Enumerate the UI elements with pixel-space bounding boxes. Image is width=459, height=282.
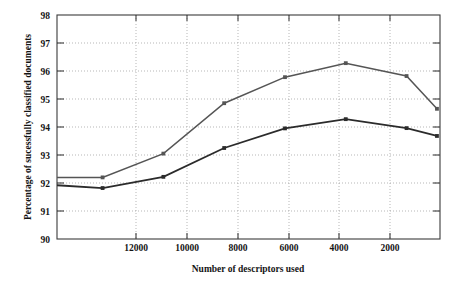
data-point-marker bbox=[101, 186, 105, 190]
x-tick-label-12000: 12000 bbox=[124, 243, 148, 253]
y-tick-label-97: 97 bbox=[41, 39, 51, 49]
data-point-marker bbox=[222, 101, 226, 105]
x-tick-label-2000: 2000 bbox=[381, 243, 400, 253]
y-tick-label-92: 92 bbox=[41, 179, 51, 189]
data-point-marker bbox=[161, 152, 165, 156]
x-tick-label-6000: 6000 bbox=[280, 243, 299, 253]
data-point-marker bbox=[283, 75, 287, 79]
y-tick-label-94: 94 bbox=[41, 123, 51, 133]
y-tick-label-93: 93 bbox=[41, 151, 51, 161]
data-point-marker bbox=[405, 126, 409, 130]
chart-figure: 98 97 96 95 94 93 92 91 90 12000 10000 8… bbox=[0, 0, 459, 282]
data-point-marker bbox=[101, 176, 105, 180]
data-point-marker bbox=[283, 127, 287, 131]
y-tick-label-91: 91 bbox=[41, 207, 51, 217]
y-tick-label-98: 98 bbox=[41, 11, 51, 21]
y-tick-label-90: 90 bbox=[41, 235, 51, 245]
x-tick-label-8000: 8000 bbox=[229, 243, 248, 253]
data-point-marker bbox=[161, 175, 165, 179]
data-point-marker bbox=[405, 74, 409, 78]
x-tick-label-10000: 10000 bbox=[175, 243, 199, 253]
x-axis-title: Number of descriptors used bbox=[192, 264, 305, 274]
line-chart: 98 97 96 95 94 93 92 91 90 12000 10000 8… bbox=[0, 0, 459, 282]
data-point-marker bbox=[435, 134, 439, 138]
data-point-marker bbox=[222, 146, 226, 150]
data-point-marker bbox=[344, 117, 348, 121]
y-tick-label-96: 96 bbox=[41, 67, 51, 77]
data-point-marker bbox=[344, 61, 348, 65]
x-tick-label-4000: 4000 bbox=[330, 243, 349, 253]
y-tick-labels: 98 97 96 95 94 93 92 91 90 bbox=[41, 11, 51, 245]
data-point-marker bbox=[435, 107, 439, 111]
y-tick-label-95: 95 bbox=[41, 95, 51, 105]
y-axis-title: Percentage of sucessfully classified doc… bbox=[23, 34, 33, 220]
